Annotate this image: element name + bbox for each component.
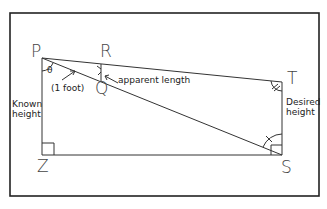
diagram-frame bbox=[10, 13, 319, 196]
label-R: R bbox=[100, 41, 112, 61]
label-one-foot: (1 foot) bbox=[51, 83, 84, 93]
label-P: P bbox=[31, 41, 41, 61]
label-T: T bbox=[287, 68, 298, 88]
right-angle-Z-icon bbox=[42, 143, 54, 155]
label-known-height-2: height bbox=[12, 109, 41, 119]
label-Q: Q bbox=[95, 78, 108, 98]
segment-PS bbox=[42, 58, 282, 155]
label-desired-height-1: Desired bbox=[286, 97, 320, 107]
label-desired-height-2: height bbox=[286, 107, 315, 117]
label-theta: θ bbox=[47, 65, 53, 75]
geometry-diagram: P R Q T S Z θ (1 foot) apparent length K… bbox=[0, 0, 327, 209]
right-angle-S-icon bbox=[271, 145, 282, 155]
label-apparent-length: apparent length bbox=[118, 75, 190, 85]
label-known-height-1: Known bbox=[12, 99, 42, 109]
tick-R-icon bbox=[97, 66, 101, 69]
label-S: S bbox=[281, 157, 292, 177]
one-foot-arrow-icon bbox=[62, 71, 75, 80]
label-Z: Z bbox=[37, 156, 49, 176]
